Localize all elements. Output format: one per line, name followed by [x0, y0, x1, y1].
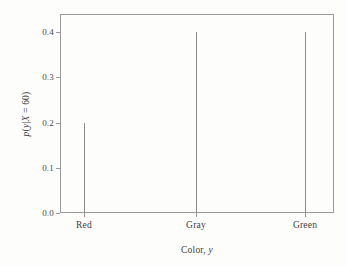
stem-bar — [84, 123, 85, 213]
y-axis-tick-mark — [56, 168, 60, 169]
y-axis-tick-label: 0.4 — [42, 27, 54, 37]
ylabel-x: X — [21, 115, 31, 121]
y-axis-tick-mark — [56, 123, 60, 124]
x-axis-tick-mark — [305, 213, 306, 217]
x-axis-tick-mark — [84, 213, 85, 217]
y-axis-tick-label: 0.1 — [42, 163, 54, 173]
xlabel-italic: y — [209, 245, 213, 255]
y-axis-tick-label: 0.2 — [42, 118, 54, 128]
y-axis-tick-label: 0.3 — [42, 72, 54, 82]
y-axis-label-text: p(y|X = 60) — [21, 91, 31, 136]
xlabel-text: Color, — [181, 245, 208, 255]
ylabel-eq: = 60) — [21, 91, 31, 115]
plot-area: 0.00.10.20.30.4RedGrayGreen — [60, 14, 334, 213]
figure: 0.00.10.20.30.4RedGrayGreen p(y|X = 60) … — [0, 0, 347, 266]
x-axis-tick-mark — [196, 213, 197, 217]
ylabel-y: y — [21, 123, 31, 127]
ylabel-p: p — [21, 131, 31, 136]
x-axis-tick-label: Gray — [186, 220, 206, 230]
y-axis-label: p(y|X = 60) — [18, 14, 34, 213]
y-axis-tick-label: 0.0 — [42, 208, 54, 218]
x-axis-tick-label: Red — [76, 220, 92, 230]
x-axis-tick-label: Green — [293, 220, 317, 230]
y-axis-tick-mark — [56, 77, 60, 78]
x-axis-label: Color, y — [60, 245, 334, 255]
stem-bar — [196, 32, 197, 213]
stem-bar — [305, 32, 306, 213]
y-axis-tick-mark — [56, 32, 60, 33]
y-axis-tick-mark — [56, 213, 60, 214]
